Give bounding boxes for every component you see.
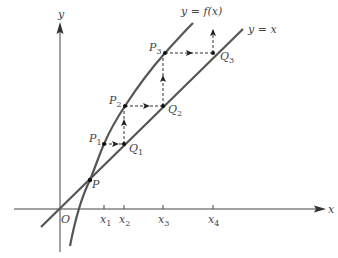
point-P2 <box>123 104 127 108</box>
point-Q2 <box>161 104 165 108</box>
label-Q2: Q2 <box>168 103 182 118</box>
arrow-right-icon <box>112 141 119 147</box>
label-P3: P3 <box>148 41 162 56</box>
point-Q1 <box>122 142 126 146</box>
point-Q3 <box>211 51 215 55</box>
point-P1 <box>102 142 106 146</box>
label-Q3: Q3 <box>220 50 234 65</box>
point-P3 <box>163 51 167 55</box>
cobweb-arrows <box>112 29 216 147</box>
cobweb-diagram: y x O x1 x2 x3 x4 y = x y = f(x) <box>0 0 338 258</box>
y-axis-label: y <box>57 8 65 21</box>
x-axis-label: x <box>328 203 335 216</box>
x-ticks <box>104 205 213 209</box>
identity-line <box>41 29 243 227</box>
label-Q1: Q1 <box>129 142 143 157</box>
arrow-up-icon <box>121 119 127 126</box>
tick-x3: x3 <box>158 213 169 228</box>
arrow-up-icon <box>210 29 216 36</box>
origin-label: O <box>61 213 70 226</box>
label-P2: P2 <box>108 94 122 109</box>
arrow-right-icon <box>143 103 150 109</box>
tick-x2: x2 <box>119 213 130 228</box>
f-curve-label: y = f(x) <box>180 5 222 18</box>
tick-x4: x4 <box>208 213 219 228</box>
identity-line-label: y = x <box>247 23 277 36</box>
label-P1: P1 <box>88 132 102 147</box>
tick-x1: x1 <box>100 213 111 228</box>
label-P: P <box>91 178 100 191</box>
